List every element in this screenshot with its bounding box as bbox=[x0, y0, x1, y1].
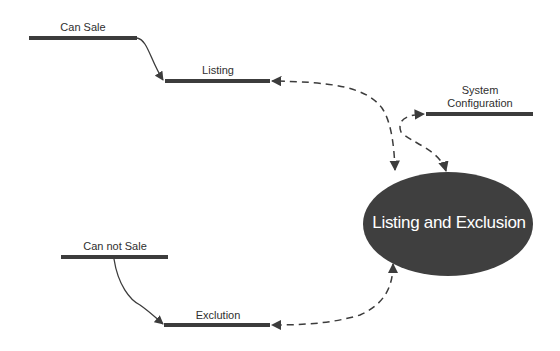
can-sale-to-listing-arrow bbox=[137, 38, 163, 80]
listing-exclusion-to-system-configuration-arrow bbox=[400, 114, 446, 171]
exclution-label: Exclution bbox=[190, 309, 246, 322]
can-not-sale-to-exclution-arrow bbox=[114, 259, 163, 324]
can-sale-label: Can Sale bbox=[58, 21, 108, 34]
system-configuration-label-line1: System bbox=[440, 84, 520, 97]
system-configuration-label: System Configuration bbox=[440, 84, 520, 110]
system-configuration-label-line2: Configuration bbox=[440, 97, 520, 110]
can-not-sale-label: Can not Sale bbox=[80, 240, 150, 253]
listing-exclusion-to-listing-arrow bbox=[272, 81, 395, 170]
diagram-canvas bbox=[0, 0, 560, 351]
listing-and-exclusion-label: Listing and Exclusion bbox=[364, 213, 534, 233]
listing-label: Listing bbox=[196, 64, 240, 77]
listing-exclusion-to-exclution-arrow bbox=[272, 264, 393, 325]
